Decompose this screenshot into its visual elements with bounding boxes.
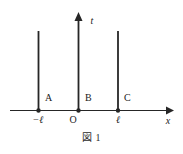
point-dot-a [36,108,40,112]
x-axis-arrow-icon [166,107,174,115]
t-axis-arrow-icon [75,12,83,21]
point-label-c: C [124,92,131,103]
point-label-a: A [45,92,53,103]
t-axis-label: t [91,15,94,26]
tick-label-positive-l: ℓ [116,114,120,125]
x-axis-label: x [165,115,171,126]
point-dot-c [116,108,120,112]
origin-label: O [69,114,76,125]
figure-caption: 図 1 [0,129,183,144]
figure-container: A B C −ℓ O ℓ x t 図 1 [0,0,183,154]
tick-label-negative-l: −ℓ [33,114,44,125]
point-dot-b [76,108,80,112]
point-label-b: B [85,92,92,103]
